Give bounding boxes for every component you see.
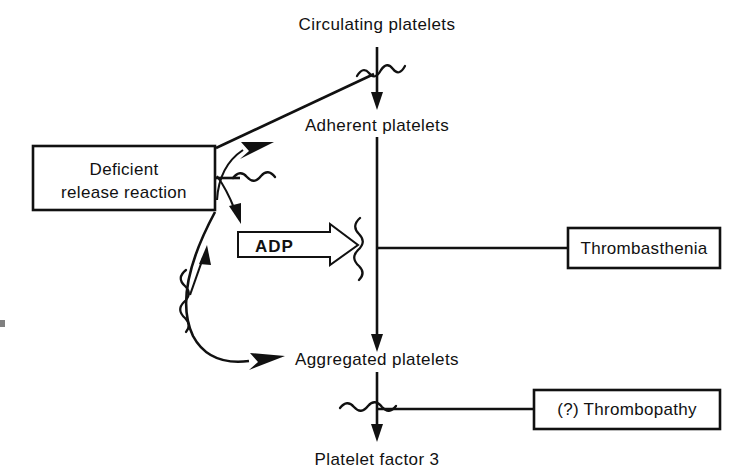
block-symbol-adhesion xyxy=(357,65,405,76)
thrombasthenia-label: Thrombasthenia xyxy=(580,239,707,258)
flow-arrow-circulating-to-adherent xyxy=(371,47,383,110)
deficient-release-label-line2: release reaction xyxy=(61,183,187,202)
thrombopathy-label: (?) Thrombopathy xyxy=(557,400,697,419)
node-label-circulating-platelets: Circulating platelets xyxy=(299,15,456,34)
node-label-aggregated-platelets: Aggregated platelets xyxy=(295,350,459,369)
block-symbol-aggregation xyxy=(354,218,363,280)
adp-label: ADP xyxy=(255,237,294,256)
deficient-release-label-line1: Deficient xyxy=(90,160,159,179)
flow-arrow-adherent-to-aggregated xyxy=(371,137,383,352)
block-symbol-release xyxy=(233,172,275,181)
scan-artifact xyxy=(0,320,5,327)
pathway-diagram: Deficient release reaction xyxy=(0,0,730,472)
diagram-page: Deficient release reaction xyxy=(0,0,730,472)
connector-box-down-arrow xyxy=(217,176,241,224)
node-label-adherent-platelets: Adherent platelets xyxy=(305,116,449,135)
connector-release-up-arrow xyxy=(190,245,211,295)
connector-box-to-adhesion xyxy=(216,74,374,148)
node-label-platelet-factor-3: Platelet factor 3 xyxy=(315,450,440,469)
